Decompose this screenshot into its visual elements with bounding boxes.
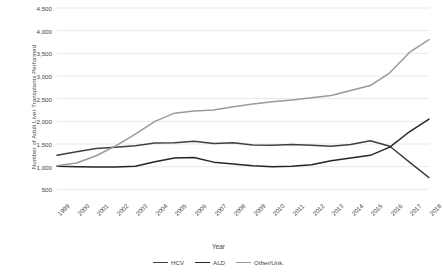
legend-item[interactable]: ALD (195, 259, 225, 266)
legend-line-swatch (153, 262, 168, 263)
y-axis-tick-label: 1,500 (16, 141, 52, 148)
legend-label: Other/Unk. (254, 259, 284, 266)
y-axis-tick-label: 2,500 (16, 95, 52, 102)
y-axis-tick-label: 3,000 (16, 73, 52, 80)
y-axis-tick-label: 3,500 (16, 50, 52, 57)
series-lines (57, 40, 429, 178)
x-axis-tick-labels: 1999200020012002200320042005200620072008… (57, 212, 429, 242)
legend-line-swatch (236, 262, 251, 263)
chart-legend: HCVALDOther/Unk. (0, 259, 437, 266)
y-axis-tick-label: 2,000 (16, 118, 52, 125)
series-line-other-unk (57, 40, 429, 166)
y-axis-tick-label: 4,500 (16, 5, 52, 12)
x-axis-tick-label: 2018 (428, 202, 443, 217)
legend-label: ALD (213, 259, 225, 266)
gridlines (57, 8, 429, 189)
plot-area (57, 8, 429, 212)
legend-line-swatch (195, 262, 210, 263)
y-axis-tick-labels: 5001,0001,5002,0002,5003,0003,5004,0004,… (16, 0, 52, 220)
series-line-hcv (57, 141, 429, 178)
y-axis-tick-label: 1,000 (16, 163, 52, 170)
legend-label: HCV (171, 259, 184, 266)
plot-svg (57, 8, 429, 212)
y-axis-tick-label: 4,000 (16, 27, 52, 34)
y-axis-tick-label: 500 (16, 186, 52, 193)
legend-item[interactable]: Other/Unk. (236, 259, 284, 266)
legend-item[interactable]: HCV (153, 259, 184, 266)
x-axis-title: Year (0, 243, 437, 250)
